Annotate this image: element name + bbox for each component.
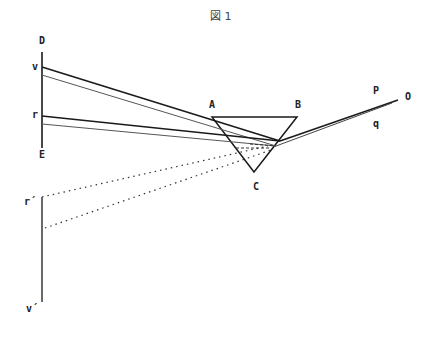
prism-diagram: 図 1 D E v r A B C P q O r´ v´ <box>0 0 434 337</box>
label-v-prime: v´ <box>26 303 38 314</box>
label-o: O <box>405 91 411 102</box>
label-d: D <box>39 35 45 46</box>
figure-title: 図 1 <box>210 10 232 23</box>
label-a: A <box>209 99 215 110</box>
dotted-r-prime <box>42 146 268 197</box>
prism-triangle <box>212 117 297 172</box>
dotted-lower <box>45 149 274 228</box>
label-r: r <box>32 109 38 120</box>
label-b: B <box>295 99 301 110</box>
label-p: P <box>373 85 379 96</box>
label-e: E <box>39 149 45 160</box>
label-c: C <box>253 181 259 192</box>
ray-r-dark <box>42 116 280 141</box>
label-q: q <box>373 118 379 129</box>
label-r-prime: r´ <box>24 196 36 207</box>
ray-v-dark <box>42 67 280 141</box>
label-v: v <box>32 61 38 72</box>
